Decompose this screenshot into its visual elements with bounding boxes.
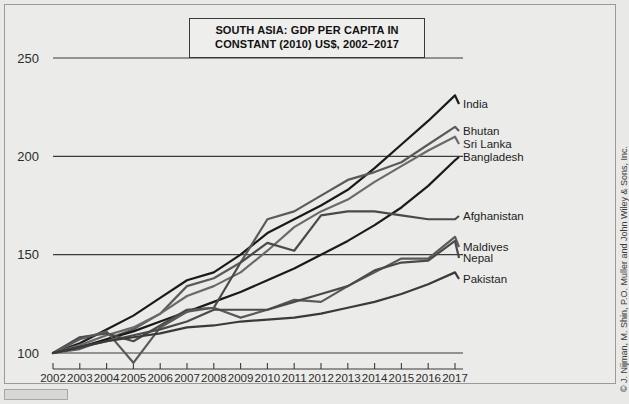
y-tick-labels: 100150200250 bbox=[17, 51, 39, 361]
series-labels: IndiaBhutanSri LankaBangladeshAfghanista… bbox=[455, 95, 524, 285]
x-tick-label: 2003 bbox=[67, 372, 93, 384]
series-label-bhutan: Bhutan bbox=[463, 125, 499, 137]
x-tick-label: 2005 bbox=[121, 372, 147, 384]
x-tick-label: 2006 bbox=[147, 372, 173, 384]
x-tick-label: 2008 bbox=[201, 372, 227, 384]
series-label-pakistan: Pakistan bbox=[463, 273, 507, 285]
chart-title-box: SOUTH ASIA: GDP PER CAPITA IN CONSTANT (… bbox=[189, 18, 425, 58]
series-line-maldives bbox=[53, 237, 455, 363]
chart-figure: 100150200250 200220032004200520062007200… bbox=[4, 4, 616, 384]
x-tick-label: 2002 bbox=[40, 372, 66, 384]
series-label-bangladesh: Bangladesh bbox=[463, 151, 524, 163]
series-label-nepal: Nepal bbox=[463, 252, 493, 264]
line-chart: 100150200250 200220032004200520062007200… bbox=[5, 5, 617, 385]
x-tick-label: 2014 bbox=[362, 372, 388, 384]
x-tick-label: 2007 bbox=[174, 372, 200, 384]
y-tick-label: 150 bbox=[17, 247, 39, 262]
x-tick-label: 2017 bbox=[442, 372, 468, 384]
x-tick-label: 2009 bbox=[228, 372, 254, 384]
x-tick-label: 2011 bbox=[282, 372, 307, 384]
y-tick-label: 250 bbox=[17, 51, 39, 66]
series-lines bbox=[53, 95, 455, 362]
chart-title-line-2: CONSTANT (2010) US$, 2002–2017 bbox=[196, 38, 418, 52]
x-tick-label: 2016 bbox=[415, 372, 441, 384]
leader-line-bhutan bbox=[455, 127, 459, 131]
corner-strip bbox=[4, 389, 68, 400]
leader-line-india bbox=[455, 95, 459, 104]
leader-line-pakistan bbox=[455, 272, 459, 279]
x-tick-label: 2013 bbox=[335, 372, 361, 384]
y-tick-label: 100 bbox=[17, 346, 39, 361]
chart-title-line-1: SOUTH ASIA: GDP PER CAPITA IN bbox=[196, 24, 418, 38]
series-line-bhutan bbox=[53, 127, 455, 353]
x-tick-label: 2010 bbox=[255, 372, 281, 384]
x-tick-label: 2004 bbox=[94, 372, 120, 384]
series-line-afghanistan bbox=[53, 211, 455, 353]
y-tick-label: 200 bbox=[17, 149, 39, 164]
copyright-credit: © J. Nijman, M. Shin, P.O. Muller and Jo… bbox=[619, 146, 629, 392]
x-tick-label: 2012 bbox=[308, 372, 334, 384]
series-line-bangladesh bbox=[53, 160, 455, 353]
series-label-india: India bbox=[463, 98, 489, 110]
leader-line-sri-lanka bbox=[455, 137, 459, 144]
leader-line-bangladesh bbox=[455, 157, 459, 160]
leader-line-afghanistan bbox=[455, 216, 459, 219]
x-axis bbox=[53, 363, 463, 369]
series-label-sri-lanka: Sri Lanka bbox=[463, 138, 512, 150]
x-tick-labels: 2002200320042005200620072008200920102011… bbox=[40, 372, 468, 384]
x-tick-label: 2015 bbox=[389, 372, 415, 384]
series-label-afghanistan: Afghanistan bbox=[463, 210, 524, 222]
